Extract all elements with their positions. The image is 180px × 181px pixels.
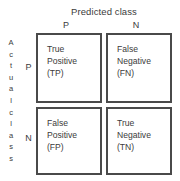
actual-title-char: l xyxy=(10,118,12,130)
row-header-positive: P xyxy=(22,62,35,73)
cell-false-positive-abbrev: (FP) xyxy=(47,142,100,154)
cell-false-positive: False Positive (FP) xyxy=(36,107,102,175)
actual-title-char: a xyxy=(9,83,13,95)
actual-title-char: u xyxy=(9,72,13,84)
column-header-negative: N xyxy=(126,20,146,31)
cell-false-negative: False Negative (FN) xyxy=(106,33,172,103)
actual-title-char: a xyxy=(9,130,13,142)
cell-true-negative: True Negative (TN) xyxy=(106,107,172,175)
cell-false-negative-line2: Negative xyxy=(117,56,170,68)
cell-false-positive-line2: Positive xyxy=(47,130,100,142)
cell-false-negative-line1: False xyxy=(117,44,170,56)
cell-false-negative-abbrev: (FN) xyxy=(117,68,170,80)
actual-title-char: t xyxy=(10,60,12,72)
row-header-negative: N xyxy=(22,133,35,144)
cell-true-negative-line2: Negative xyxy=(117,130,170,142)
actual-title-char: l xyxy=(10,95,12,107)
cell-true-negative-abbrev: (TN) xyxy=(117,142,170,154)
predicted-class-axis-title: Predicted class xyxy=(36,6,172,17)
actual-title-char: c xyxy=(9,49,13,61)
actual-title-char: s xyxy=(9,153,13,165)
cell-true-positive: True Positive (TP) xyxy=(36,33,102,103)
cell-true-positive-abbrev: (TP) xyxy=(47,68,100,80)
cell-true-positive-line1: True xyxy=(47,44,100,56)
cell-false-positive-line1: False xyxy=(47,118,100,130)
actual-title-char: s xyxy=(9,141,13,153)
confusion-matrix-diagram: Predicted class P N A c t u a l c l a s … xyxy=(0,0,180,181)
actual-title-char: A xyxy=(8,37,13,49)
cell-true-negative-line1: True xyxy=(117,118,170,130)
actual-class-axis-title: A c t u a l c l a s s xyxy=(4,37,18,165)
column-header-positive: P xyxy=(56,20,76,31)
actual-title-char: c xyxy=(9,107,13,119)
cell-true-positive-line2: Positive xyxy=(47,56,100,68)
